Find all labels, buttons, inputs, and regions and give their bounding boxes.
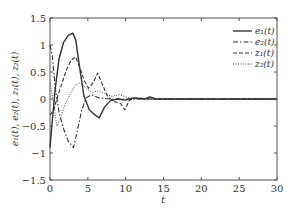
y-tick-label: −1 (31, 148, 46, 159)
x-axis-label: t (161, 194, 166, 205)
legend: e₁(t)e₂(t)z₁(t)z₂(t) (233, 26, 275, 69)
x-tick-label: 20 (195, 183, 208, 194)
legend-label: z₂(t) (254, 59, 274, 69)
series-e1t-line (50, 33, 277, 148)
y-tick-label: 1.5 (30, 13, 46, 24)
series-layer (50, 33, 277, 148)
x-tick-label: 10 (119, 183, 132, 194)
y-tick-label: −0.5 (22, 121, 46, 132)
x-tick-label: 30 (271, 183, 284, 194)
x-tick-label: 15 (157, 183, 170, 194)
legend-label: e₁(t) (255, 26, 275, 36)
series-z1t-line (50, 57, 277, 115)
y-tick-label: −1.5 (22, 175, 46, 186)
axis-ticks: 051015202530−1.5−1−0.500.511.5 (22, 13, 284, 195)
x-tick-label: 25 (233, 183, 246, 194)
x-tick-label: 5 (85, 183, 91, 194)
line-chart: 051015202530−1.5−1−0.500.511.5 e₁(t)e₂(t… (0, 0, 292, 215)
x-tick-label: 0 (47, 183, 53, 194)
y-axis-label: e₁(t), e₂(t), z₁(t), z₂(t) (10, 51, 20, 146)
legend-label: e₂(t) (255, 37, 275, 47)
y-tick-label: 0.5 (30, 67, 46, 78)
y-tick-label: 0 (40, 94, 46, 105)
legend-label: z₁(t) (254, 48, 274, 58)
y-tick-label: 1 (40, 40, 46, 51)
